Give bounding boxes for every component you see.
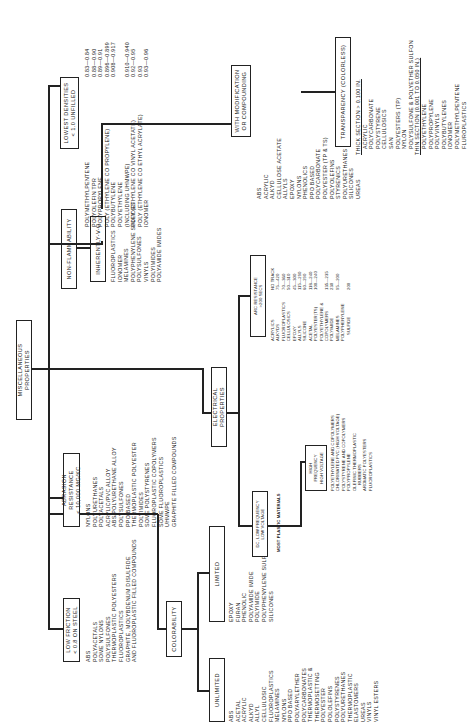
electrical-split-2 (300, 461, 302, 527)
abrasion-box: ABRASION RESISTANCE < 10,000 MG/KC (63, 453, 80, 527)
abrasion-list: NYLONS POLYURETHANES POLYACETALS ACRYLIC… (85, 437, 177, 528)
connector-lowest-h (48, 85, 50, 245)
withmod-box: WITH MODIFICATION OR COMPOUNDING (231, 65, 251, 137)
connector-electrical-h (202, 368, 204, 414)
low-friction-box: LOW FRICTION < 0.8 ON STEEL (63, 598, 80, 662)
lowest-densities-list: POLYMETHYLPENTENE POLYOLEFIN TPR POLYPRO… (84, 114, 150, 227)
transparency-list: THICK SECTION > 0.100 IN. ACRYLIC POLYCA… (355, 40, 467, 155)
lowest-densities-values: 0.83—0.84 0.88—0.90 0.89—0.91 0.896—0.89… (84, 42, 150, 77)
arc-list: ACRYLICS ALKYDS FLUOROPLASTICS CELLULOSI… (270, 302, 351, 341)
colorability-box: COLORABILITY (166, 601, 182, 657)
connector-colorability-h (48, 628, 50, 630)
transparency-box: TRANSPARENCY (COLORLESS) (335, 37, 351, 147)
connector-high-2 (238, 525, 301, 527)
electrical-box: ELECTRICAL PROPERTIES (211, 367, 227, 447)
right-trunk-down (48, 243, 102, 245)
dc-low-list: MOST PLASTIC MATERIALS (276, 493, 281, 552)
nonflam-to-withmod (101, 123, 103, 209)
colorability-stem (182, 628, 198, 630)
unlimited-list: ABS ACETAL ACRYLIC ALKYD ALLYL CELLULOSI… (228, 667, 380, 722)
connector-colorability (157, 514, 159, 630)
colorability-split (197, 572, 199, 692)
low-friction-list: ABS POLYACETALS SOME NYLONS POLYSULFONES… (85, 539, 138, 662)
transparency-drop (301, 91, 336, 93)
dc-low-box: DC, LOW FREQUENCY LOW VOLTAGE (252, 491, 268, 557)
nonflam-box: NON-FLAMMABILITY (61, 209, 77, 289)
trunk-line (48, 243, 50, 630)
unlimited-box: UNLIMITED (209, 658, 225, 722)
limited-box: LIMITED (209, 526, 225, 622)
withmod-line (101, 241, 103, 243)
arc-values: NO TRACK 75—420 70—360 50—310 45—300 115… (270, 268, 351, 290)
connector-withmod-h (101, 243, 103, 245)
high-list: POLYETHYLENE AND COPOLYMERS CHLORINATED … (330, 414, 373, 491)
root-title: MISCELLANEOUS PROPERTIES (17, 324, 31, 416)
limited-list: EPOXY FURAN PHENOLIC POLYAMIDE IMIDE POL… (228, 546, 274, 622)
electrical-split (238, 295, 240, 527)
root-box: MISCELLANEOUS PROPERTIES (16, 320, 32, 420)
root-connector (31, 368, 49, 370)
withmod-stem (101, 123, 232, 125)
connector-inherently (77, 247, 91, 249)
high-box: HIGH FREQUENCY HIGH VOLTAGE (305, 445, 327, 491)
lowest-densities-box: LOWEST DENSITIES < 1.0 UNFILLED (60, 77, 79, 149)
arc-box: ARC RESISTANCE >200 SECS (250, 255, 266, 337)
connector-electrical (48, 368, 203, 370)
